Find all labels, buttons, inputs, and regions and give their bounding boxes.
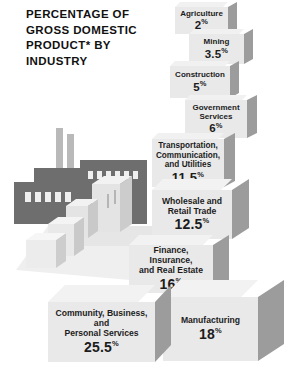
gdp-by-industry-infographic: PERCENTAGE OF GROSS DOMESTIC PRODUCT* BY… bbox=[0, 0, 295, 370]
block-name-line-2: Personal Services bbox=[50, 328, 153, 338]
title-line-4: INDUSTRY bbox=[26, 54, 166, 70]
block-community-business-personal-services: Community, Business, and Personal Servic… bbox=[48, 302, 155, 362]
block-side-face bbox=[224, 133, 235, 187]
block-name: Finance, Insurance, bbox=[131, 245, 211, 265]
block-name-line-2: Communication, bbox=[154, 150, 222, 160]
block-value: 5% bbox=[172, 80, 228, 94]
block-label-transportation-communication-utilities: Transportation, Communication, and Utili… bbox=[152, 141, 224, 185]
block-wholesale-retail-trade: Wholesale and Retail Trade 12.5% bbox=[152, 190, 232, 239]
block-top-face bbox=[48, 285, 155, 302]
title-line-1: PERCENTAGE OF bbox=[26, 7, 166, 23]
block-name: Community, Business, and bbox=[50, 308, 153, 328]
title-line-2: GROSS DOMESTIC bbox=[26, 23, 166, 39]
page-title: PERCENTAGE OF GROSS DOMESTIC PRODUCT* BY… bbox=[26, 7, 166, 69]
block-label-construction: Construction 5% bbox=[170, 70, 230, 94]
block-side-face bbox=[232, 179, 249, 239]
block-side-face bbox=[247, 95, 257, 138]
block-name-line-2: and Real Estate bbox=[131, 265, 211, 275]
block-name: Mining bbox=[191, 37, 242, 46]
block-label-community-business-personal-services: Community, Business, and Personal Servic… bbox=[48, 308, 155, 356]
block-label-agriculture: Agriculture 2% bbox=[175, 9, 228, 33]
block-government-services: Government Services 6% bbox=[185, 100, 247, 138]
block-label-mining: Mining 3.5% bbox=[189, 37, 244, 61]
block-manufacturing: Manufacturing 18% bbox=[163, 297, 258, 361]
block-label-wholesale-retail-trade: Wholesale and Retail Trade 12.5% bbox=[152, 196, 232, 234]
title-line-3: PRODUCT* BY bbox=[26, 38, 166, 54]
block-side-face bbox=[258, 280, 284, 361]
block-construction: Construction 5% bbox=[170, 66, 230, 98]
block-value: 18% bbox=[165, 326, 256, 343]
block-mining: Mining 3.5% bbox=[189, 34, 244, 64]
block-label-manufacturing: Manufacturing 18% bbox=[163, 315, 258, 343]
block-side-face bbox=[230, 61, 239, 98]
block-value: 3.5% bbox=[191, 47, 242, 61]
block-name: Wholesale and bbox=[154, 196, 230, 206]
block-value: 25.5% bbox=[50, 339, 153, 356]
block-value: 12.5% bbox=[154, 216, 230, 233]
block-name-line-3: and Utilities bbox=[154, 160, 222, 170]
block-label-government-services: Government Services 6% bbox=[185, 103, 247, 136]
block-side-face bbox=[244, 29, 253, 64]
block-name: Government bbox=[187, 103, 245, 112]
block-top-face bbox=[152, 179, 232, 190]
block-name: Manufacturing bbox=[165, 315, 256, 325]
block-name-line-2: Retail Trade bbox=[154, 206, 230, 216]
block-top-face bbox=[129, 235, 213, 245]
block-name: Transportation, bbox=[154, 141, 222, 151]
